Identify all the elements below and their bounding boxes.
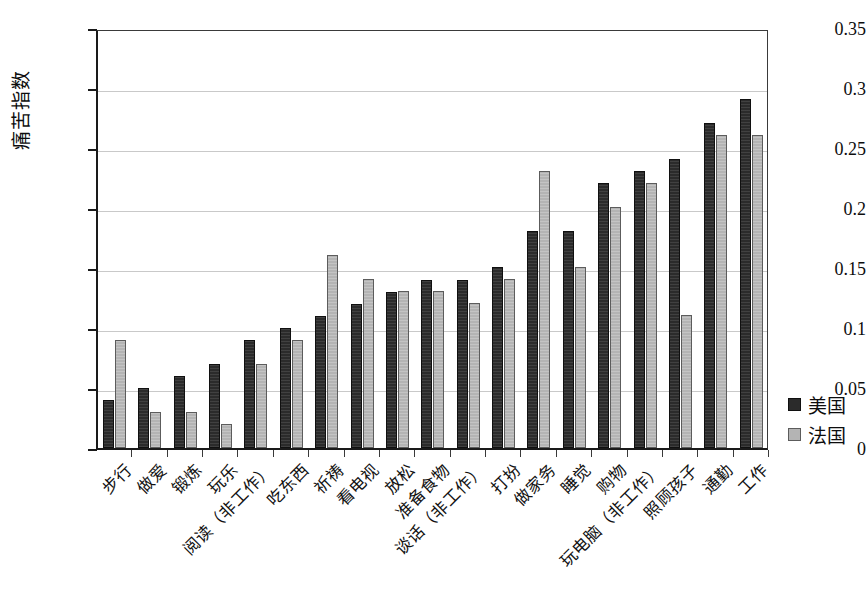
bar[interactable] (752, 135, 763, 448)
x-tick-mark (237, 450, 238, 457)
legend-swatch-icon (788, 428, 801, 441)
bar[interactable] (221, 424, 232, 448)
x-tick-label: 锻炼 (166, 458, 207, 499)
bar[interactable] (280, 328, 291, 448)
bar[interactable] (115, 340, 126, 448)
y-tick-label: 0.3 (792, 79, 866, 100)
bar-group (699, 31, 734, 448)
bar-group (169, 31, 204, 448)
x-tick-mark (379, 450, 380, 457)
x-tick-mark (733, 450, 734, 457)
bar[interactable] (186, 412, 197, 448)
bar[interactable] (103, 400, 114, 448)
legend-item[interactable]: 美国 (788, 392, 846, 416)
x-tick-label: 步行 (96, 458, 137, 499)
x-tick-label: 工作 (732, 458, 773, 499)
legend-swatch-icon (788, 398, 801, 411)
bar[interactable] (740, 99, 751, 448)
x-tick-mark (344, 450, 345, 457)
legend-item[interactable]: 法国 (788, 422, 846, 446)
legend-label: 美国 (808, 391, 846, 418)
y-tick-label: 0.1 (792, 319, 866, 340)
y-tick-label: 0.25 (792, 139, 866, 160)
bar[interactable] (469, 303, 480, 448)
x-tick-mark (167, 450, 168, 457)
bar[interactable] (351, 304, 362, 448)
x-tick-label: 做爱 (131, 458, 172, 499)
bar-group (593, 31, 628, 448)
bar-group (416, 31, 451, 448)
bar[interactable] (504, 279, 515, 448)
bar-group (487, 31, 522, 448)
bar[interactable] (669, 159, 680, 448)
x-tick-mark (131, 450, 132, 457)
bar[interactable] (539, 171, 550, 448)
bar-group (522, 31, 557, 448)
legend-label: 法国 (808, 421, 846, 448)
bar-group (133, 31, 168, 448)
bar-group (239, 31, 274, 448)
bar[interactable] (704, 123, 715, 448)
x-tick-mark (627, 450, 628, 457)
bar[interactable] (433, 291, 444, 448)
x-tick-mark (202, 450, 203, 457)
bar[interactable] (421, 280, 432, 448)
bar[interactable] (681, 315, 692, 448)
bar-group (452, 31, 487, 448)
x-tick-mark (662, 450, 663, 457)
bar-group (204, 31, 239, 448)
bar[interactable] (386, 292, 397, 448)
bar[interactable] (634, 171, 645, 448)
bar-chart: 痛苦指数 00.050.10.150.20.250.30.35 步行做爱锻炼玩乐… (0, 0, 866, 607)
y-tick-label: 0.15 (792, 259, 866, 280)
bar[interactable] (256, 364, 267, 448)
bar[interactable] (492, 267, 503, 448)
bar[interactable] (398, 291, 409, 448)
bar[interactable] (292, 340, 303, 448)
bar-group (98, 31, 133, 448)
bar[interactable] (575, 267, 586, 448)
x-tick-mark (697, 450, 698, 457)
legend: 美国法国 (788, 392, 846, 452)
bar-group (275, 31, 310, 448)
bar[interactable] (315, 316, 326, 448)
bar-group (310, 31, 345, 448)
x-tick-mark (485, 450, 486, 457)
bar-group (629, 31, 664, 448)
bar[interactable] (209, 364, 220, 448)
bar-group (664, 31, 699, 448)
bar[interactable] (563, 231, 574, 448)
y-tick-label: 0.2 (792, 199, 866, 220)
bar-group (381, 31, 416, 448)
y-axis-title: 痛苦指数 (6, 20, 33, 200)
bar[interactable] (363, 279, 374, 448)
bar-group (558, 31, 593, 448)
bar[interactable] (457, 280, 468, 448)
bar[interactable] (610, 207, 621, 448)
bar-group (735, 31, 770, 448)
x-tick-mark (556, 450, 557, 457)
bar[interactable] (150, 412, 161, 448)
x-tick-mark (450, 450, 451, 457)
bar[interactable] (244, 340, 255, 448)
plot-area (96, 30, 768, 450)
bar-group (346, 31, 381, 448)
x-tick-label: 睡觉 (555, 458, 596, 499)
bar[interactable] (646, 183, 657, 448)
x-tick-mark (414, 450, 415, 457)
x-tick-label: 通勤 (697, 458, 738, 499)
bar[interactable] (327, 255, 338, 448)
x-tick-mark (591, 450, 592, 457)
x-tick-mark (768, 450, 769, 457)
bar[interactable] (174, 376, 185, 448)
y-tick-label: 0.35 (792, 19, 866, 40)
x-tick-mark (308, 450, 309, 457)
bar[interactable] (598, 183, 609, 448)
bar[interactable] (138, 388, 149, 448)
x-tick-mark (520, 450, 521, 457)
bar[interactable] (716, 135, 727, 448)
bar[interactable] (527, 231, 538, 448)
x-tick-mark (273, 450, 274, 457)
